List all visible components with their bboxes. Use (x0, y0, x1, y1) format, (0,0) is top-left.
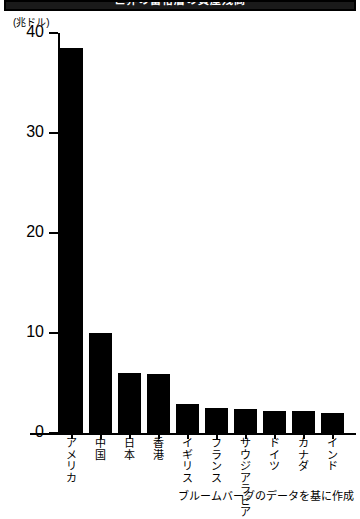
bar (176, 404, 199, 433)
x-axis-tick-mark (216, 435, 218, 439)
x-axis-tick-mark (100, 435, 102, 439)
x-axis-category-label: 香 港 (147, 438, 170, 461)
chart-title: 世界の富裕層の資産残高 (6, 0, 354, 6)
plot-area (58, 30, 356, 433)
x-axis-category-label: 日 本 (118, 438, 141, 461)
x-axis-category-label: サ ウ ジ ア ラ ビ ア (234, 438, 257, 519)
bar (292, 411, 315, 433)
y-axis-tick-mark (49, 432, 58, 434)
x-axis-tick-mark (71, 435, 73, 439)
y-axis-tick-label: 40 (26, 23, 44, 41)
y-axis-tick-label: 30 (26, 123, 44, 141)
x-axis-tick-mark (245, 435, 247, 439)
x-axis-category-label: カ ナ ダ (292, 438, 315, 473)
y-axis-tick-mark (49, 332, 58, 334)
x-axis-category-label: イ ン ド (321, 438, 344, 473)
source-note: ブルームバーグのデータを基に作成 (178, 490, 354, 503)
x-axis-tick-mark (274, 435, 276, 439)
y-axis-tick-mark (49, 32, 58, 34)
x-axis-category-label: 中 国 (89, 438, 112, 461)
x-axis-category-label: イ ギ リ ス (176, 438, 199, 484)
x-axis-category-label: ア メ リ カ (60, 438, 83, 484)
y-axis-tick-mark (49, 232, 58, 234)
bar (205, 408, 228, 433)
x-axis-category-label: フ ラ ン ス (205, 438, 228, 484)
bar (118, 373, 141, 433)
x-axis-tick-mark (187, 435, 189, 439)
bar (321, 413, 344, 433)
bar (89, 333, 112, 433)
bar (263, 411, 286, 433)
bar (60, 48, 83, 433)
y-axis-tick-label: 20 (26, 223, 44, 241)
bar (147, 374, 170, 433)
chart-title-banner: 世界の富裕層の資産残高 (4, 0, 356, 11)
x-axis-tick-mark (332, 435, 334, 439)
y-axis-tick-label: 10 (26, 323, 44, 341)
y-axis-tick-mark (49, 132, 58, 134)
x-axis-line (30, 433, 356, 435)
y-axis-tick-label: 0 (35, 423, 44, 441)
x-axis-tick-mark (129, 435, 131, 439)
x-axis-category-label: ド イ ツ (263, 438, 286, 473)
bar (234, 409, 257, 433)
x-axis-tick-mark (303, 435, 305, 439)
x-axis-tick-mark (158, 435, 160, 439)
